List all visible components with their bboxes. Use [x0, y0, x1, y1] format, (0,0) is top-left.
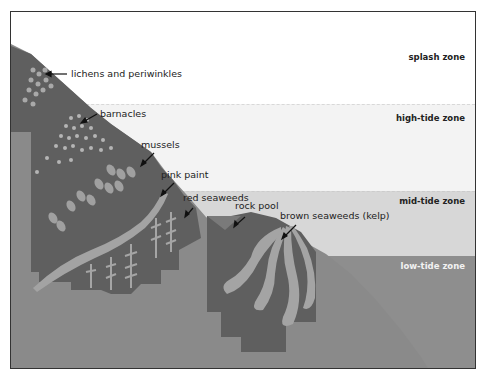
callout-brown-seaweeds-kelp: brown seaweeds (kelp) — [280, 210, 390, 221]
callout-mussels: mussels — [141, 139, 180, 150]
callout-rock-pool: rock pool — [235, 200, 279, 211]
callout-barnacles: barnacles — [100, 108, 146, 119]
rocky-shore-illustration — [11, 12, 476, 369]
diagram-frame: splash zone high-tide zone mid-tide zone… — [10, 11, 476, 369]
zone-label-mid-tide: mid-tide zone — [399, 196, 465, 206]
zone-label-high-tide: high-tide zone — [396, 113, 465, 123]
callout-pink-paint: pink paint — [161, 169, 208, 180]
zone-label-low-tide: low-tide zone — [400, 261, 465, 271]
callout-lichens-and-periwinkles: lichens and periwinkles — [71, 68, 182, 79]
zone-label-splash: splash zone — [409, 52, 465, 62]
